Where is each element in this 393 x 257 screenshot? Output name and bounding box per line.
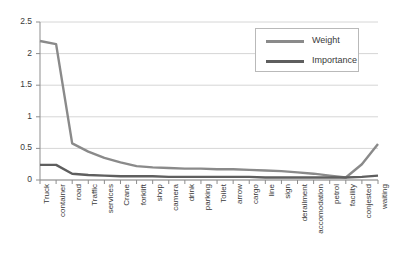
x-tick-label: cargo	[252, 184, 260, 204]
x-tick-label: Crane	[123, 184, 131, 206]
legend-label-weight: Weight	[312, 35, 340, 45]
y-tick-label: 1.5	[8, 80, 32, 89]
x-tick-label: facility	[349, 184, 357, 206]
chart-legend: Weight Importance	[255, 28, 359, 72]
x-tick-label: line	[268, 184, 276, 196]
y-tick-marks	[36, 22, 40, 180]
x-tick-label: road	[75, 184, 83, 200]
y-tick-label: 2	[8, 49, 32, 58]
x-tick-label: camera	[172, 184, 180, 211]
x-tick-label: Traffic	[91, 184, 99, 206]
x-tick-label: parking	[204, 184, 212, 210]
legend-swatch-weight	[266, 40, 304, 43]
y-tick-label: 1	[8, 112, 32, 121]
x-tick-label: petrol	[333, 184, 341, 204]
x-tick-label: services	[107, 184, 115, 213]
x-tick-label: derailment	[301, 184, 309, 221]
legend-swatch-importance	[266, 60, 304, 63]
y-tick-label: 2.5	[8, 17, 32, 26]
x-tick-label: shop	[156, 184, 164, 201]
y-tick-label: 0.5	[8, 143, 32, 152]
x-tick-label: container	[59, 184, 67, 217]
chart-container: 00.511.522.5 TruckcontainerroadTrafficse…	[0, 0, 393, 257]
x-tick-label: conjested	[365, 184, 373, 218]
legend-label-importance: Importance	[312, 55, 357, 65]
x-tick-label: waiting	[381, 184, 389, 209]
x-tick-label: sign	[284, 184, 292, 199]
legend-item-weight: Weight	[256, 32, 360, 50]
x-axis-labels: TruckcontainerroadTrafficservicesCranefo…	[0, 182, 393, 257]
x-tick-label: Toilet	[220, 184, 228, 203]
x-tick-label: Truck	[43, 184, 51, 204]
x-tick-label: arrow	[236, 184, 244, 204]
x-tick-label: drink	[188, 184, 196, 201]
x-tick-label: accomodation	[317, 184, 325, 234]
x-tick-label: forklift	[140, 184, 148, 205]
legend-item-importance: Importance	[256, 52, 360, 70]
